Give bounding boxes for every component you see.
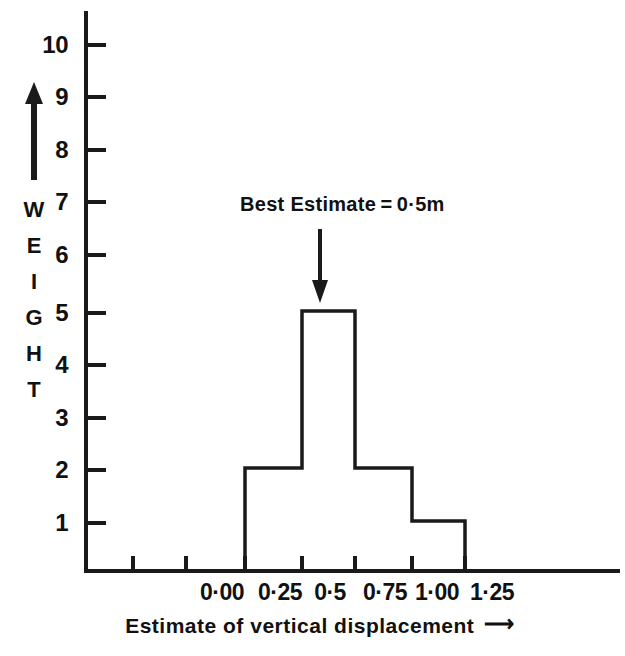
y-axis-title-char-g: G [17, 300, 51, 336]
y-tick-label-10: 10 [22, 33, 68, 57]
y-axis-ticks [86, 45, 106, 523]
x-tick-label-1-25: 1·25 [453, 581, 531, 604]
y-tick-label-8: 8 [22, 138, 68, 162]
best-estimate-annotation: Best Estimate = 0·5m [240, 193, 540, 216]
x-axis-ticks [133, 556, 465, 571]
y-axis-title-char-i: I [17, 264, 51, 300]
y-axis-title-char-w: W [17, 192, 51, 228]
plot-canvas [0, 0, 625, 656]
x-axis-title-text: Estimate of vertical displacement [125, 614, 474, 637]
annotation-arrow-icon [312, 229, 328, 303]
y-tick-label-2: 2 [22, 458, 68, 482]
x-axis-title: Estimate of vertical displacement⟶ [60, 612, 580, 638]
y-tick-label-1: 1 [22, 511, 68, 535]
y-axis-title-char-h: H [17, 336, 51, 372]
histogram-figure: 10 9 8 7 6 5 4 3 2 1 0·00 0·25 0·5 0·75 … [0, 0, 625, 656]
y-tick-label-9: 9 [22, 85, 68, 109]
y-axis-title: W E I G H T [17, 192, 51, 408]
histogram-outline [245, 311, 465, 571]
y-axis-title-char-e: E [17, 228, 51, 264]
y-tick-label-3: 3 [22, 406, 68, 430]
y-axis-title-char-t: T [17, 372, 51, 408]
x-axis-arrow-icon: ⟶ [484, 612, 515, 636]
